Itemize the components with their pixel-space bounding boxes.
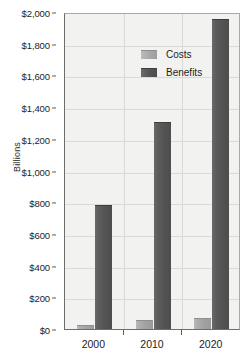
y-axis-tick-mark [52, 44, 56, 45]
y-axis-tick-mark [52, 203, 56, 204]
y-axis-tick-label: $1,200 [22, 134, 50, 145]
bar-costs-2020 [194, 318, 211, 329]
y-axis-tick-label: $0 [40, 325, 50, 336]
y-axis-tick-label: $200 [29, 293, 50, 304]
legend-item-costs: Costs [141, 47, 202, 61]
y-axis-tick-mark [52, 171, 56, 172]
legend-swatch-benefits [141, 68, 157, 77]
x-axis-tick-label: 2000 [82, 338, 105, 350]
bar-costs-2010 [136, 320, 153, 330]
chart-legend: Costs Benefits [141, 47, 202, 83]
legend-swatch-costs [141, 50, 157, 59]
x-axis-tick-mark [123, 330, 124, 335]
bar-costs-2000 [77, 325, 94, 329]
y-axis-tick-mark [52, 298, 56, 299]
legend-label-costs: Costs [166, 49, 192, 60]
x-axis: 200020102020 [64, 330, 240, 356]
x-axis-tick-label: 2020 [199, 338, 222, 350]
y-axis-tick-label: $600 [29, 229, 50, 240]
y-axis-tick-mark [52, 234, 56, 235]
y-axis-tick-label: $1,400 [22, 103, 50, 114]
bar-benefits-2020 [212, 19, 229, 329]
y-axis-tick-labels: $0$200$400$600$800$1,000$1,200$1,400$1,6… [0, 0, 56, 356]
y-axis-tick-label: $400 [29, 261, 50, 272]
y-axis-tick-mark [52, 266, 56, 267]
legend-item-benefits: Benefits [141, 65, 202, 79]
y-axis-tick-label: $1,600 [22, 71, 50, 82]
bar-benefits-2010 [154, 122, 171, 329]
y-axis-tick-mark [52, 76, 56, 77]
plot-area: Costs Benefits [64, 13, 240, 330]
gridline-vertical [124, 14, 125, 329]
y-axis-tick-mark [52, 13, 56, 14]
bar-benefits-2000 [95, 205, 112, 329]
y-axis-tick-label: $1,800 [22, 39, 50, 50]
bar-chart: Billions $0$200$400$600$800$1,000$1,200$… [0, 0, 243, 356]
y-axis-tick-mark [52, 108, 56, 109]
y-axis-tick-mark [52, 139, 56, 140]
y-axis-tick-label: $800 [29, 198, 50, 209]
y-axis-tick-label: $2,000 [22, 8, 50, 19]
x-axis-tick-label: 2010 [140, 338, 163, 350]
x-axis-tick-mark [181, 330, 182, 335]
legend-label-benefits: Benefits [166, 67, 202, 78]
y-axis-tick-mark [52, 330, 56, 331]
y-axis-tick-label: $1,000 [22, 166, 50, 177]
